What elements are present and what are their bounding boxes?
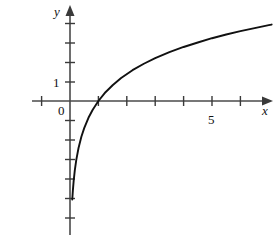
graph-canvas: y x 0 1 5	[0, 0, 274, 235]
x-axis-label: x	[261, 103, 268, 118]
y-axis-label: y	[52, 4, 60, 19]
y-axis-arrowhead	[66, 5, 75, 16]
origin-label: 0	[58, 103, 65, 118]
logarithmic-function-graph: y x 0 1 5	[0, 0, 274, 235]
logarithm-curve	[72, 25, 271, 200]
x-tick-label-5: 5	[208, 112, 215, 127]
y-tick-label-1: 1	[53, 75, 60, 90]
